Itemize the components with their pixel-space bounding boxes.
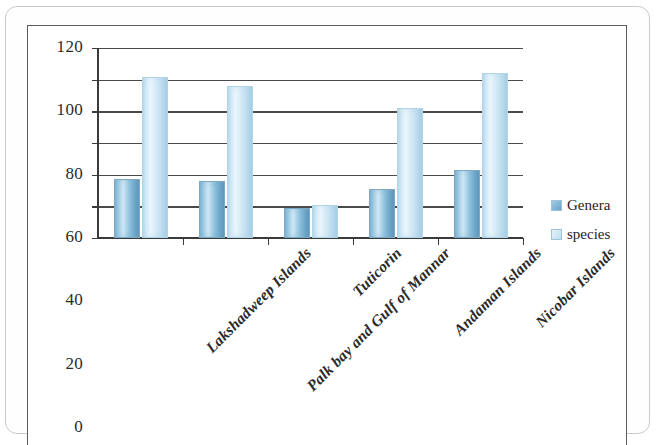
bar-genera[interactable] — [284, 208, 310, 238]
bar-species[interactable] — [482, 73, 508, 238]
legend-swatch-icon — [551, 200, 562, 211]
y-axis-tick-label: 100 — [57, 101, 83, 121]
y-axis-tick: 0 — [92, 238, 99, 239]
y-axis-tick-label: 120 — [57, 37, 83, 57]
bar-genera[interactable] — [199, 181, 225, 238]
x-axis-tick — [268, 238, 269, 245]
chart-legend: Generaspecies — [551, 198, 610, 256]
x-axis-tick — [183, 238, 184, 245]
y-axis-tick-label: 60 — [65, 227, 83, 247]
bar-genera[interactable] — [114, 179, 140, 238]
legend-swatch-icon — [551, 229, 562, 240]
y-axis-tick-label: 20 — [65, 354, 83, 374]
legend-item[interactable]: Genera — [551, 198, 610, 213]
bar-species[interactable] — [312, 205, 338, 238]
bar-species[interactable] — [397, 108, 423, 238]
x-axis-label: Andaman Islands — [450, 244, 545, 339]
bar-group — [438, 48, 523, 238]
legend-label: Genera — [567, 198, 610, 213]
legend-label: species — [567, 227, 610, 242]
plot-area: 120100806040200 — [98, 48, 523, 238]
y-axis-tick-label: 40 — [65, 291, 83, 311]
legend-item[interactable]: species — [551, 227, 610, 242]
bar-group — [183, 48, 268, 238]
y-axis-tick-label: 0 — [74, 417, 83, 437]
x-axis-label: Lakshadweep Islands — [202, 244, 315, 357]
bar-genera[interactable] — [454, 170, 480, 238]
bar-species[interactable] — [227, 86, 253, 238]
x-axis-tick — [353, 238, 354, 245]
x-axis-tick — [523, 238, 524, 245]
bar-group — [353, 48, 438, 238]
bar-species[interactable] — [142, 77, 168, 239]
bar-group — [268, 48, 353, 238]
y-axis-tick-label: 80 — [65, 164, 83, 184]
bar-genera[interactable] — [369, 189, 395, 238]
x-axis-tick — [438, 238, 439, 245]
bar-group — [98, 48, 183, 238]
